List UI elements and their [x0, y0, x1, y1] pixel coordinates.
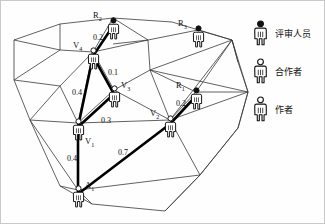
person-filled-head-icon [189, 87, 204, 110]
person-glyph [252, 96, 269, 122]
node-label-v2: V2 [150, 109, 159, 120]
edge-weight-v4-v3: 0.1 [108, 69, 118, 77]
person-glyph [252, 20, 269, 46]
person-glyph [252, 58, 269, 84]
edge-weight-a1-v2: 0.7 [118, 149, 128, 157]
person-glyph [71, 185, 86, 208]
node-v4[interactable] [86, 47, 101, 70]
edge-weight-v4-v1: 0.4 [72, 89, 82, 97]
node-label-r3: R3 [178, 19, 187, 30]
legend-reviewer-label: 评审人员 [275, 27, 311, 40]
node-r1[interactable] [189, 87, 204, 110]
node-r3[interactable] [191, 25, 206, 48]
node-label-v1: V1 [85, 137, 94, 148]
node-label-v4: V4 [73, 41, 82, 52]
person-filled-head-icon [252, 20, 269, 46]
legend-collaborator: 合作者 [252, 52, 324, 90]
node-a1[interactable] [71, 185, 86, 208]
edge-weight-v3-v1: 0.3 [101, 117, 111, 125]
person-filled-head-icon [191, 25, 206, 48]
edge-weight-v2-r1: 0.2 [176, 100, 186, 108]
legend-collaborator-label: 合作者 [275, 65, 302, 78]
person-hollow-head-icon [252, 58, 269, 84]
node-label-a1: A1 [85, 181, 94, 192]
node-label-r2: R2 [93, 11, 102, 22]
person-filled-head-icon [106, 17, 121, 40]
person-hollow-head-icon [252, 96, 269, 122]
person-glyph [189, 87, 204, 110]
node-label-v3: V3 [121, 81, 130, 92]
legend-author: 作者 [252, 90, 324, 128]
person-hollow-head-icon [71, 185, 86, 208]
person-glyph [191, 25, 206, 48]
legend: 评审人员 合作者 作者 [252, 14, 324, 128]
node-v2[interactable] [163, 115, 178, 138]
person-glyph [71, 118, 86, 141]
person-glyph [107, 85, 122, 108]
person-glyph [86, 47, 101, 70]
person-hollow-head-icon [71, 118, 86, 141]
node-r2[interactable] [106, 17, 121, 40]
edge-weight-a1-v1: 0.4 [67, 155, 77, 163]
edge-weight-v4-r2: 0.2 [93, 34, 103, 42]
person-glyph [106, 17, 121, 40]
node-v3[interactable] [107, 85, 122, 108]
person-hollow-head-icon [107, 85, 122, 108]
node-label-r1: R1 [176, 81, 185, 92]
legend-reviewer: 评审人员 [252, 14, 324, 52]
person-hollow-head-icon [86, 47, 101, 70]
person-glyph [163, 115, 178, 138]
node-v1[interactable] [71, 118, 86, 141]
legend-author-label: 作者 [275, 103, 293, 116]
person-hollow-head-icon [163, 115, 178, 138]
network-diagram: R2 R3 R1 V4 V3 V2 V1 A1 0.20.10.40.30.20… [0, 0, 325, 224]
